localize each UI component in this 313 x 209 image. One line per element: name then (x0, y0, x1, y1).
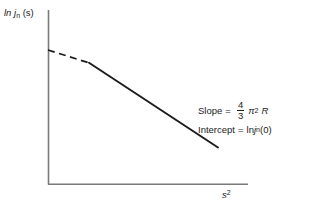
pi-exponent: 2 (255, 107, 259, 114)
gas-constant-symbol: R (261, 106, 268, 116)
intercept-annotation: Intercept = ln jn(0) (198, 122, 272, 137)
slope-label: Slope (198, 106, 222, 116)
x-axis-label: s2 (222, 189, 231, 200)
slope-fraction-denominator: 3 (237, 110, 244, 121)
extrapolated-intercept-line (48, 50, 91, 64)
y-axis-label-tail: (s) (20, 7, 34, 18)
slope-annotation: Slope = 4 3 π2 R (198, 101, 272, 120)
slope-fraction-numerator: 4 (237, 100, 244, 110)
x-axis-label-exponent: 2 (227, 189, 231, 196)
slope-equals: = (225, 106, 231, 116)
intercept-equals: = (238, 125, 244, 135)
intercept-value-prefix: ln (247, 125, 254, 135)
y-axis-label-ln: ln j (4, 7, 16, 18)
plot-figure: ln jn (s) s2 Slope = 4 3 π2 R Intercept … (0, 0, 313, 209)
slope-fraction: 4 3 (237, 100, 244, 121)
annotation-block: Slope = 4 3 π2 R Intercept = ln jn(0) (198, 101, 272, 137)
intercept-label: Intercept (198, 125, 235, 135)
intercept-value-suffix: (0) (260, 125, 272, 135)
y-axis-label: ln jn (s) (4, 8, 34, 19)
